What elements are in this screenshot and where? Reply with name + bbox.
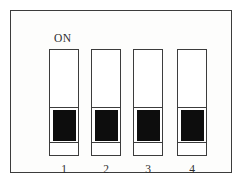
switch-number-label-1: 1 xyxy=(49,161,79,177)
switch-number-label-2: 2 xyxy=(91,161,121,177)
on-label: ON xyxy=(54,31,88,45)
channel-rule-bottom xyxy=(134,142,162,143)
channel-rule-top xyxy=(134,107,162,108)
switch-channel xyxy=(134,50,162,155)
dip-switch-4[interactable] xyxy=(177,49,207,156)
switch-number-label-4: 4 xyxy=(177,161,207,177)
switch-actuator-4[interactable] xyxy=(181,110,204,141)
channel-rule-bottom xyxy=(178,142,206,143)
switch-channel xyxy=(92,50,120,155)
dip-switch-housing: ON xyxy=(10,10,232,173)
channel-rule-top xyxy=(92,107,120,108)
dip-switch-figure: ON xyxy=(0,0,244,185)
switch-number-label-3: 3 xyxy=(133,161,163,177)
channel-rule-bottom xyxy=(92,142,120,143)
dip-switch-1[interactable] xyxy=(49,49,79,156)
dip-switch-3[interactable] xyxy=(133,49,163,156)
switch-actuator-2[interactable] xyxy=(95,110,118,141)
switch-channel xyxy=(50,50,78,155)
switch-actuator-3[interactable] xyxy=(137,110,160,141)
channel-rule-top xyxy=(50,107,78,108)
switch-channel xyxy=(178,50,206,155)
dip-switch-2[interactable] xyxy=(91,49,121,156)
switch-actuator-1[interactable] xyxy=(53,110,76,141)
channel-rule-top xyxy=(178,107,206,108)
channel-rule-bottom xyxy=(50,142,78,143)
